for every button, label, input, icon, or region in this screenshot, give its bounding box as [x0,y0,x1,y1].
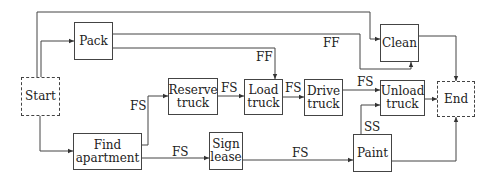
edge-paint-end [392,117,456,161]
node-end-label: End [444,93,468,106]
node-drive-truck: Drive truck [304,79,343,116]
edge-label-find-sign: FS [172,146,189,158]
node-reserve-truck: Reserve truck [168,78,218,115]
edge-label-load-drive: FS [285,82,302,94]
node-clean-label: Clean [382,37,417,50]
node-pack-label: Pack [79,35,108,48]
edge-label-find-reserve: FS [130,100,147,112]
edge-label-sign-paint: FS [292,147,309,159]
edge-start-find [40,116,73,151]
node-start: Start [21,77,60,116]
node-end: End [437,81,475,117]
node-unload-truck: Unload truck [380,80,425,116]
edge-label-pack-load: FF [256,51,273,63]
node-pack: Pack [74,22,113,60]
node-unload-truck-label: Unload truck [381,85,425,111]
node-find-apartment-label: Find apartment [74,139,141,165]
edge-label-pack-clean: FF [323,37,340,49]
node-reserve-truck-label: Reserve truck [169,84,218,110]
edge-label-paint-unload: SS [364,121,380,133]
node-paint-label: Paint [357,147,388,160]
edge-start-pack [41,41,74,77]
node-sign-lease-label: Sign lease [210,138,242,164]
edge-label-reserve-load: FS [221,82,238,94]
node-find-apartment: Find apartment [73,133,142,170]
node-paint: Paint [353,134,392,172]
node-drive-truck-label: Drive truck [305,85,342,111]
node-load-truck: Load truck [244,79,283,115]
node-load-truck-label: Load truck [245,84,282,110]
edge-clean-end [419,36,456,81]
node-start-label: Start [25,90,56,103]
edge-label-drive-unload: FS [357,76,374,88]
edge-pack-load [113,48,275,79]
node-clean: Clean [380,24,419,62]
node-sign-lease: Sign lease [209,132,243,170]
